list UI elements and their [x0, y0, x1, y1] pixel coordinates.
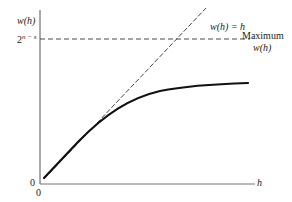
diagram-canvas: w(h) 2n − s w(h) = h Maximum w(h) 0 0 h — [0, 0, 292, 202]
maximum-w-label: w(h) — [253, 43, 271, 53]
x-axis-label: h — [257, 178, 262, 188]
origin-y-label: 0 — [30, 178, 35, 188]
y-max-tick-exponent: n − s — [22, 33, 36, 41]
w-of-h-curve — [44, 83, 248, 178]
y-max-tick-label: 2n − s — [17, 34, 36, 45]
maximum-label: Maximum — [242, 31, 284, 41]
y-axis-label: w(h) — [17, 16, 35, 26]
identity-line-label: w(h) = h — [210, 22, 245, 32]
origin-x-label: 0 — [36, 188, 41, 198]
